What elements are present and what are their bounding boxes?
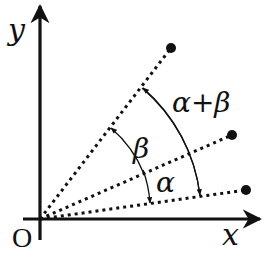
x-axis-label: x — [222, 217, 239, 252]
ray-alpha-plus-beta — [40, 48, 171, 219]
point-top — [166, 43, 176, 53]
origin-label: O — [12, 222, 32, 253]
label-alpha-plus-beta: α+β — [172, 86, 231, 119]
point-bottom — [241, 185, 251, 195]
arc-alpha — [143, 170, 150, 203]
label-alpha: α — [156, 166, 175, 199]
point-middle — [227, 130, 237, 140]
ray-base — [40, 190, 246, 219]
label-beta: β — [132, 132, 149, 165]
y-axis-label: y — [6, 12, 26, 47]
angle-diagram: y x O α+β β α — [0, 0, 264, 268]
